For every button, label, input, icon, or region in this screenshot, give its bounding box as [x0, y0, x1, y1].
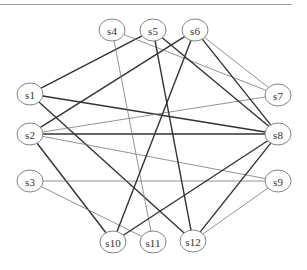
edge-s2-s10 — [37, 143, 106, 233]
node-label: s2 — [25, 129, 35, 141]
node-s6: s6 — [182, 19, 208, 41]
node-s8: s8 — [265, 123, 291, 145]
node-label: s4 — [107, 25, 117, 37]
node-s9: s9 — [265, 170, 291, 192]
node-s7: s7 — [265, 84, 291, 106]
edge-s8-s12 — [200, 143, 270, 232]
node-label: s11 — [146, 237, 161, 249]
node-s5: s5 — [140, 19, 166, 41]
node-s12: s12 — [180, 230, 206, 252]
edge-s5-s12 — [155, 41, 191, 230]
node-label: s10 — [105, 237, 121, 249]
edge-s4-s7 — [124, 35, 266, 91]
graph-diagram: s1s2s3s4s5s6s7s8s9s10s11s12 — [0, 0, 307, 270]
edge-s2-s9 — [43, 136, 266, 178]
edge-s1-s5 — [41, 36, 142, 88]
node-label: s5 — [148, 25, 158, 37]
node-s4: s4 — [99, 19, 125, 41]
edge-s3-s11 — [41, 187, 142, 237]
node-label: s12 — [185, 236, 200, 248]
edge-s9-s12 — [203, 188, 268, 234]
node-s1: s1 — [17, 83, 43, 105]
node-label: s6 — [190, 25, 200, 37]
edge-s6-s10 — [117, 40, 191, 231]
node-label: s1 — [25, 89, 35, 101]
node-label: s3 — [25, 176, 35, 188]
edge-s6-s8 — [202, 39, 270, 125]
edge-s8-s10 — [123, 141, 267, 236]
node-s10: s10 — [100, 231, 126, 253]
node-s11: s11 — [140, 231, 166, 253]
node-label: s8 — [273, 129, 283, 141]
edges-layer — [37, 35, 271, 237]
edge-s5-s8 — [162, 38, 268, 127]
node-label: s7 — [273, 90, 283, 102]
node-s2: s2 — [17, 123, 43, 145]
node-s3: s3 — [17, 170, 43, 192]
node-label: s9 — [273, 176, 283, 188]
edge-s1-s12 — [39, 102, 184, 233]
